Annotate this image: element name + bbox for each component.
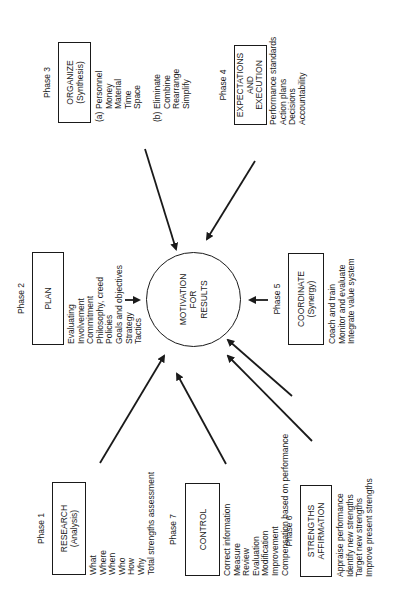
- group-tag: (b): [153, 109, 191, 122]
- phase6-list: Appraise performance Identify new streng…: [336, 478, 374, 577]
- phase7-label: Phase 7: [168, 483, 178, 576]
- arrow-phase1: [100, 356, 164, 463]
- phase1-list: What Where When Who How Why Total streng…: [89, 472, 156, 575]
- phase3-list: (a) Personnel Money Material Time Space …: [95, 69, 191, 122]
- phase4-box: EXPECTATIONS AND EXECUTION: [234, 45, 267, 125]
- list-item: Integrate value system: [347, 258, 357, 344]
- phase1-subtitle: (Analysis): [69, 510, 79, 547]
- phase6-box: STRENGTHS AFFIRMATION: [300, 485, 332, 577]
- phase6-title: STRENGTHS: [306, 505, 316, 557]
- phase3-box: ORGANIZE (Synthesis): [58, 42, 91, 123]
- list-item: Space: [133, 71, 143, 109]
- phase5-box: COORDINATE (Synergy): [288, 253, 324, 345]
- center-circle: MOTIVATION FOR RESULTS: [146, 252, 241, 347]
- arrow-phase7b: [228, 356, 312, 441]
- phase2-box: PLAN: [32, 252, 64, 345]
- phase3-subtitle: (Synthesis): [75, 61, 85, 104]
- list-item: Accountability: [298, 37, 308, 125]
- phase3-title: ORGANIZE: [65, 60, 75, 104]
- list-item: Compensation based on performance: [281, 434, 291, 576]
- phase2-list: Evaluating Involvement Commitment Philos…: [67, 265, 144, 344]
- center-line-3: RESULTS: [199, 280, 210, 319]
- list-item: Tactics: [134, 265, 144, 344]
- phase4-list: Performance standards Action plans Decis…: [269, 37, 307, 125]
- group-tag: (a): [95, 109, 143, 122]
- phase1-box: RESEARCH (Analysis): [52, 482, 86, 575]
- phase4-label: Phase 4: [218, 45, 228, 125]
- phase6-subtitle: AFFIRMATION: [316, 503, 326, 560]
- arrow-phase3: [145, 149, 176, 249]
- phase1-title: RESEARCH: [59, 505, 69, 552]
- phase5-title: COORDINATE: [296, 271, 306, 327]
- phase5-list: Coach and train Monitor and evaluate Int…: [328, 258, 357, 344]
- list-item: Improve present strengths: [365, 478, 375, 577]
- phase7-title: CONTROL: [198, 509, 208, 551]
- phase2-title: PLAN: [43, 287, 53, 309]
- arrow-phase7: [177, 374, 226, 464]
- phase5-subtitle: (Synergy): [306, 281, 316, 318]
- phase3-group-b: (b) Eliminate Combine Rearrange Simplify: [153, 69, 191, 122]
- phase7-list: Correct information Measure Review Evalu…: [223, 434, 290, 576]
- diagram-canvas: MOTIVATION FOR RESULTS Phase 1 RESEARCH …: [0, 0, 396, 606]
- phase3-group-a: (a) Personnel Money Material Time Space: [95, 69, 143, 122]
- phase2-label: Phase 2: [16, 252, 26, 345]
- phase3-label: Phase 3: [42, 42, 52, 123]
- list-item: Total strengths assessment: [147, 472, 157, 575]
- phase7-box: CONTROL: [185, 483, 220, 576]
- phase4-title-execution: EXECUTION: [255, 60, 265, 110]
- list-item: Simplify: [182, 69, 192, 109]
- center-line-1: MOTIVATION: [178, 274, 189, 326]
- phase1-label: Phase 1: [36, 482, 46, 575]
- arrow-phase4: [207, 161, 255, 239]
- center-line-2: FOR: [188, 291, 199, 309]
- phase5-label: Phase 5: [272, 253, 282, 345]
